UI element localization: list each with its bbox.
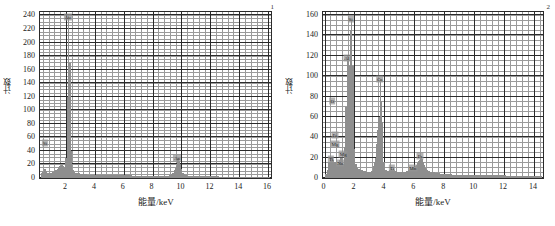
y-tick-label: 100 — [23, 105, 35, 114]
x-tick-label: 0 — [322, 182, 326, 191]
y-tick-label: 20 — [310, 152, 318, 161]
peak-label-al: Al — [343, 54, 350, 61]
y-tick-label: 40 — [310, 132, 318, 141]
peak-label-fe: Fe — [332, 132, 339, 139]
x-tick-label: 4 — [381, 182, 385, 191]
y-tick-label: 120 — [306, 50, 318, 59]
x-tick-label: 2 — [351, 182, 355, 191]
peak-label-ti: Ti — [328, 155, 334, 162]
peak-label-mg: Mg — [339, 150, 348, 157]
panel-2-corner-tag: 2 — [547, 3, 551, 11]
peak-label-si: Si — [42, 139, 48, 146]
y-tick-label: 0 — [31, 173, 35, 182]
x-tick-label: 10 — [469, 182, 477, 191]
x-tick-label: 16 — [263, 182, 271, 191]
y-tick-label: 60 — [310, 111, 318, 120]
y-tick-label: 180 — [23, 51, 35, 60]
y-tick-label: 80 — [310, 91, 318, 100]
x-tick-label: 14 — [529, 182, 537, 191]
panel-1-x-axis-label: 能量/keV — [138, 195, 174, 208]
x-tick-label: 2 — [63, 182, 67, 191]
panel-2-y-ticks: 020406080100120140160 — [294, 11, 318, 179]
x-tick-label: 8 — [150, 182, 154, 191]
panel-2-x-ticks: 02468101214 — [322, 182, 544, 194]
x-tick-label: 12 — [499, 182, 507, 191]
x-tick-label: 6 — [411, 182, 415, 191]
panel-1-corner-tag: 1 — [271, 3, 275, 11]
peak-label-na: Na — [336, 159, 344, 166]
y-tick-label: 60 — [27, 132, 35, 141]
panel-2-spectrum-trace — [323, 12, 543, 178]
y-tick-label: 120 — [23, 91, 35, 100]
y-tick-label: 20 — [27, 159, 35, 168]
peak-label-o: O — [329, 97, 335, 104]
y-tick-label: 40 — [27, 145, 35, 154]
x-tick-label: 12 — [205, 182, 213, 191]
panel-2-plot-area: SiAlCaOFeMgMgTiNaFeMnTi — [322, 11, 544, 179]
y-tick-label: 160 — [23, 64, 35, 73]
panel-1-plot-area: AuSiAu — [39, 11, 272, 179]
panel-2-x-axis-label: 能量/keV — [415, 195, 451, 208]
peak-label-mn: Mn — [408, 164, 417, 171]
y-tick-label: 140 — [23, 78, 35, 87]
y-tick-label: 80 — [27, 118, 35, 127]
panel-1-plot: AuSiAu — [39, 11, 272, 179]
panel-1-y-ticks: 020406080100120140160180200220240 — [11, 11, 35, 179]
y-tick-label: 200 — [23, 37, 35, 46]
eds-spectrum-panel-1: 计数 020406080100120140160180200220240 AuS… — [0, 0, 280, 226]
panel-1-x-ticks: 246810121416 — [39, 182, 272, 194]
peak-label-fe: Fe — [417, 152, 424, 159]
x-tick-label: 8 — [441, 182, 445, 191]
peak-label-ca: Ca — [376, 76, 384, 83]
y-tick-label: 0 — [314, 173, 318, 182]
y-tick-label: 220 — [23, 23, 35, 32]
x-tick-label: 10 — [177, 182, 185, 191]
peak-label-au: Au — [173, 154, 181, 161]
peak-label-au: Au — [64, 14, 72, 21]
eds-spectrum-panel-2: 计数 020406080100120140160 SiAlCaOFeMgMgTi… — [280, 0, 555, 226]
panel-1-spectrum-trace — [40, 12, 271, 178]
panel-2-plot: SiAlCaOFeMgMgTiNaFeMnTi — [322, 11, 544, 179]
x-tick-label: 14 — [234, 182, 242, 191]
figure-container: 计数 020406080100120140160180200220240 AuS… — [0, 0, 555, 226]
x-tick-label: 6 — [121, 182, 125, 191]
y-tick-label: 100 — [306, 71, 318, 80]
y-tick-label: 160 — [306, 10, 318, 19]
peak-label-si: Si — [347, 16, 353, 23]
x-tick-label: 4 — [92, 182, 96, 191]
y-tick-label: 240 — [23, 10, 35, 19]
peak-label-mg: Mg — [331, 141, 340, 148]
y-tick-label: 140 — [306, 30, 318, 39]
peak-label-ti: Ti — [389, 164, 395, 171]
